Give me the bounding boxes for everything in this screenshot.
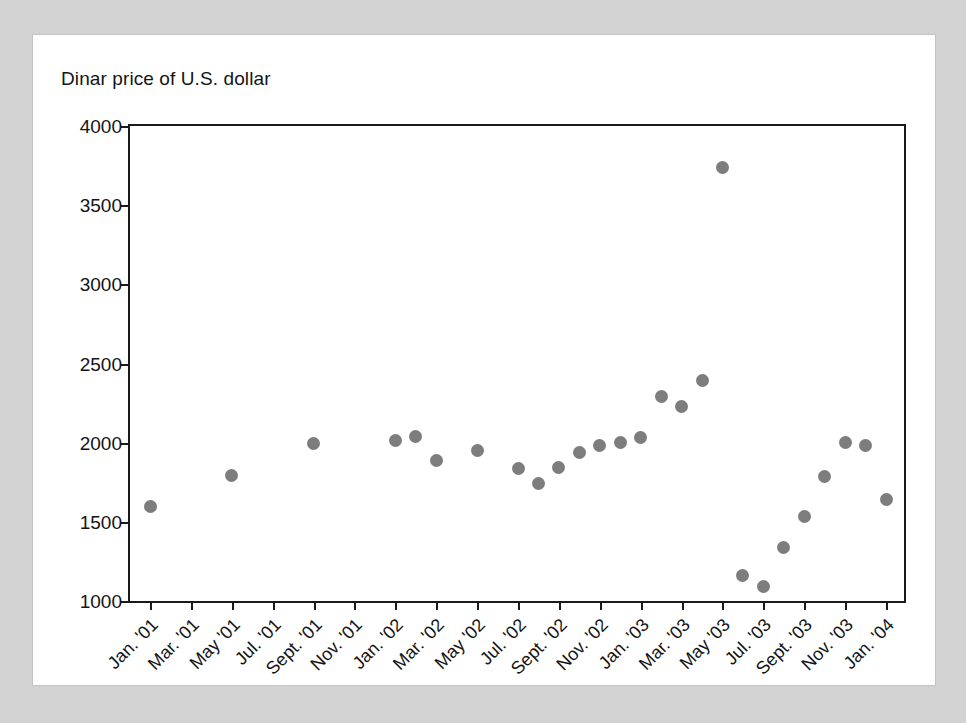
y-tick-label: 2000 (80, 433, 122, 452)
y-tick-label: 3500 (80, 196, 122, 215)
x-tick-mark (722, 601, 724, 610)
scatter-series (130, 126, 904, 601)
x-tick-mark (150, 601, 152, 610)
data-point (614, 436, 627, 449)
data-point (880, 493, 893, 506)
data-point (696, 374, 709, 387)
y-tick-label: 3000 (80, 275, 122, 294)
x-tick-mark (682, 601, 684, 610)
data-point (736, 569, 749, 582)
data-point (634, 431, 647, 444)
x-tick-mark (804, 601, 806, 610)
y-tick-mark (121, 364, 130, 366)
data-point (777, 541, 790, 554)
data-point (389, 434, 402, 447)
x-tick-mark (518, 601, 520, 610)
data-point (818, 470, 831, 483)
x-tick-mark (845, 601, 847, 610)
x-tick-mark (395, 601, 397, 610)
x-tick-mark (559, 601, 561, 610)
x-tick-mark (477, 601, 479, 610)
data-point (675, 400, 688, 413)
y-tick-label: 1000 (80, 592, 122, 611)
y-tick-mark (121, 522, 130, 524)
data-point (716, 161, 729, 174)
y-tick-label: 2500 (80, 354, 122, 373)
figure-panel: Dinar price of U.S. dollar 1000150020002… (33, 35, 935, 685)
x-tick-mark (886, 601, 888, 610)
x-tick-mark (354, 601, 356, 610)
data-point (552, 461, 565, 474)
y-tick-label: 4000 (80, 117, 122, 136)
data-point (409, 430, 422, 443)
data-point (471, 444, 484, 457)
x-tick-mark (273, 601, 275, 610)
page-title: Dinar price of U.S. dollar (61, 68, 271, 90)
x-tick-mark (600, 601, 602, 610)
data-point (225, 469, 238, 482)
y-tick-mark (121, 205, 130, 207)
data-point (532, 477, 545, 490)
data-point (655, 390, 668, 403)
data-point (593, 439, 606, 452)
y-tick-mark (121, 601, 130, 603)
data-point (859, 439, 872, 452)
x-tick-mark (232, 601, 234, 610)
data-point (144, 500, 157, 513)
x-tick-mark (191, 601, 193, 610)
x-tick-mark (436, 601, 438, 610)
x-tick-mark (763, 601, 765, 610)
plot-area: 1000150020002500300035004000 Jan. '01Mar… (128, 124, 906, 603)
x-tick-mark (641, 601, 643, 610)
data-point (798, 510, 811, 523)
data-point (512, 462, 525, 475)
data-point (839, 436, 852, 449)
y-tick-mark (121, 126, 130, 128)
y-tick-mark (121, 284, 130, 286)
data-point (307, 437, 320, 450)
x-tick-mark (314, 601, 316, 610)
y-tick-mark (121, 443, 130, 445)
y-tick-label: 1500 (80, 512, 122, 531)
data-point (757, 580, 770, 593)
data-point (430, 454, 443, 467)
data-point (573, 446, 586, 459)
